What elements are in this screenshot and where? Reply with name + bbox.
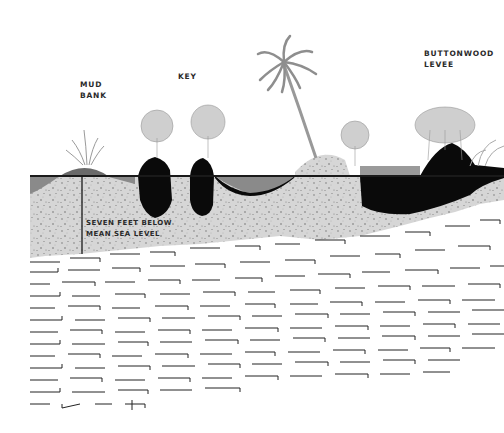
mud-bank-label: MUD BANK xyxy=(80,79,107,101)
depth-note-label: SEVEN FEET BELOW MEAN SEA LEVEL xyxy=(86,218,172,240)
key-label: KEY xyxy=(178,71,197,82)
right-grass-icon xyxy=(470,140,504,166)
buttonwood-levee-label: BUTTONWOOD LEVEE xyxy=(424,48,494,70)
vegetation xyxy=(66,130,104,165)
cross-section-figure: MUD BANK KEY BUTTONWOOD LEVEE SEVEN FEET… xyxy=(0,0,504,433)
palm-tree-icon xyxy=(258,36,316,158)
mud-bank-mound xyxy=(60,168,108,176)
mud-bank-grass-icon xyxy=(66,130,104,165)
